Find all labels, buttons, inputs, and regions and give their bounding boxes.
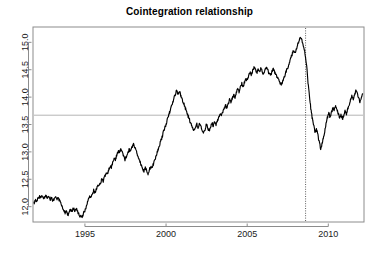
y-tick-label: 12.0 xyxy=(20,198,30,216)
y-tick-label: 13.0 xyxy=(20,143,30,161)
plot-background xyxy=(33,27,364,222)
x-tick-label: 2010 xyxy=(318,229,338,239)
x-tick-label: 2000 xyxy=(156,229,176,239)
y-tick-label: 13.5 xyxy=(20,116,30,134)
y-tick-label: 15.0 xyxy=(20,34,30,52)
x-tick-label: 2005 xyxy=(237,229,257,239)
y-tick-label: 14.5 xyxy=(20,61,30,79)
x-axis: 1995200020052010 xyxy=(75,224,338,240)
y-tick-label: 14.0 xyxy=(20,88,30,106)
y-tick-label: 12.5 xyxy=(20,171,30,189)
y-axis: 12.012.513.013.514.014.515.0 xyxy=(20,34,32,216)
plot-area: 12.012.513.013.514.014.515.0 19952000200… xyxy=(0,0,379,254)
x-tick-label: 1995 xyxy=(75,229,95,239)
chart-figure: Cointegration relationship 12.012.513.01… xyxy=(0,0,379,254)
